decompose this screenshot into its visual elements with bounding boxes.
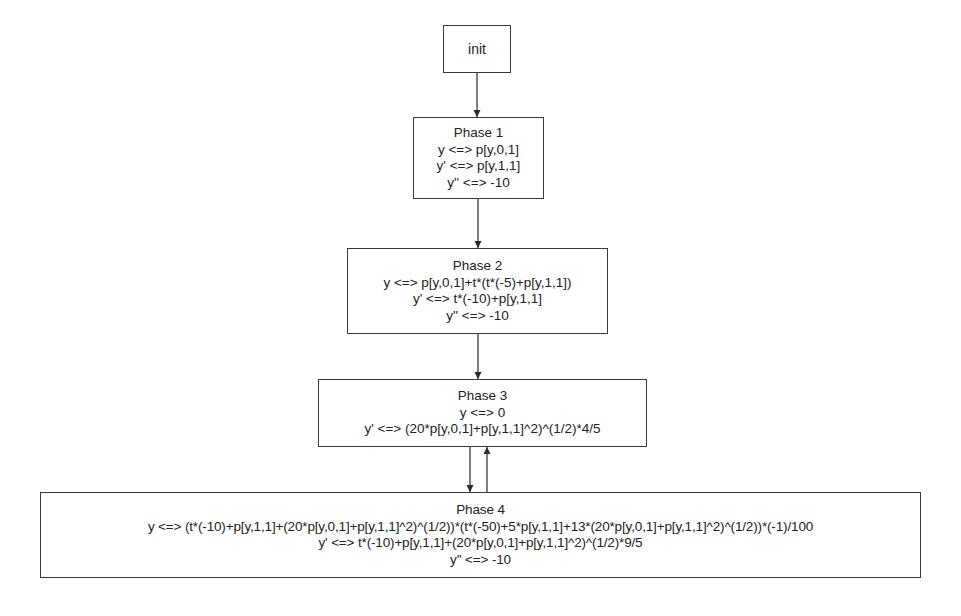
equation-y-double-prime: y'' <=> -10 [446, 308, 509, 325]
node-title: init [468, 41, 486, 58]
node-phase-4: Phase 4 y <=> (t*(-10)+p[y,1,1]+(20*p[y,… [40, 492, 921, 578]
node-title: Phase 1 [454, 125, 504, 142]
node-phase-2: Phase 2 y <=> p[y,0,1]+t*(t*(-5)+p[y,1,1… [347, 248, 608, 334]
equation-y: y <=> p[y,0,1]+t*(t*(-5)+p[y,1,1]) [383, 275, 571, 292]
node-phase-3: Phase 3 y <=> 0 y' <=> (20*p[y,0,1]+p[y,… [318, 379, 647, 447]
equation-y-double-prime: y'' <=> -10 [450, 552, 511, 569]
equation-y: y <=> (t*(-10)+p[y,1,1]+(20*p[y,0,1]+p[y… [148, 519, 813, 536]
node-phase-1: Phase 1 y <=> p[y,0,1] y' <=> p[y,1,1] y… [413, 117, 544, 199]
equation-y-prime: y' <=> p[y,1,1] [437, 158, 521, 175]
equation-y-double-prime: y'' <=> -10 [447, 175, 510, 192]
node-title: Phase 4 [456, 502, 505, 519]
equation-y-prime: y' <=> t*(-10)+p[y,1,1]+(20*p[y,0,1]+p[y… [319, 535, 643, 552]
node-title: Phase 3 [458, 388, 508, 405]
equation-y-prime: y' <=> t*(-10)+p[y,1,1] [413, 291, 542, 308]
equation-y: y <=> p[y,0,1] [438, 142, 519, 159]
equation-y: y <=> 0 [460, 405, 505, 422]
node-init: init [443, 25, 511, 73]
equation-y-prime: y' <=> (20*p[y,0,1]+p[y,1,1]^2)^(1/2)*4/… [364, 421, 600, 438]
node-title: Phase 2 [453, 258, 503, 275]
